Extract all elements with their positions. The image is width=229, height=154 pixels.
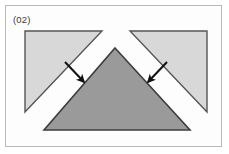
- figure-root: (02): [0, 0, 229, 154]
- figure-diagram-canvas: [0, 0, 229, 154]
- right-arrow: [148, 62, 167, 82]
- figure-label: (02): [13, 14, 31, 25]
- left-arrow: [65, 62, 84, 82]
